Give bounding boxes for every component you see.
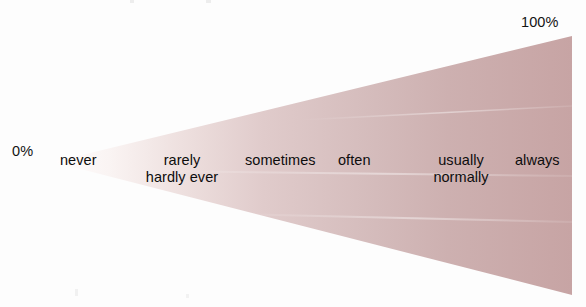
frequency-label-alternate: normally [419, 169, 503, 186]
frequency-label-rarely: rarely hardly ever [133, 152, 231, 186]
cone-sheen-lower [230, 214, 572, 222]
frequency-scale-diagram: 0% 100% never rarely hardly ever sometim… [0, 0, 586, 307]
scan-artifact [206, 0, 211, 3]
scan-artifact [186, 294, 189, 298]
scale-min-label: 0% [12, 143, 33, 159]
cone-sheen-top [300, 106, 572, 120]
frequency-label-often: often [338, 152, 371, 169]
frequency-label-primary: always [515, 152, 560, 168]
frequency-label-never: never [60, 152, 97, 169]
frequency-label-alternate: hardly ever [133, 169, 231, 186]
scale-max-label: 100% [521, 14, 559, 30]
scan-artifact [130, 0, 134, 3]
scan-artifact [75, 289, 78, 296]
frequency-label-usually: usually normally [419, 152, 503, 186]
frequency-label-always: always [515, 152, 560, 169]
frequency-label-sometimes: sometimes [245, 152, 316, 169]
frequency-label-primary: rarely [164, 152, 201, 168]
frequency-label-primary: often [338, 152, 371, 168]
frequency-label-primary: usually [438, 152, 484, 168]
frequency-label-primary: never [60, 152, 97, 168]
frequency-label-primary: sometimes [245, 152, 316, 168]
